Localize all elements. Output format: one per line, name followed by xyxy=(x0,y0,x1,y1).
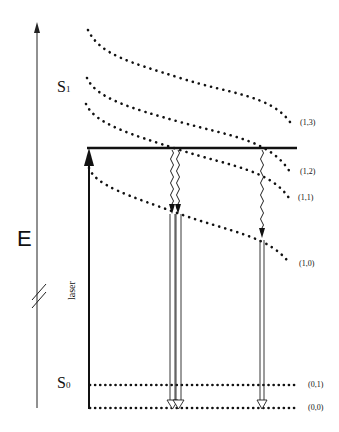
ground-levels xyxy=(90,385,298,408)
level-curve-1-2 xyxy=(87,78,290,172)
relaxation-arrows xyxy=(171,150,264,234)
level-label-1-0: (1,0) xyxy=(299,259,314,268)
relaxation-arrowheads xyxy=(169,204,265,238)
energy-axis-label: E xyxy=(17,226,32,252)
level-label-1-1: (1,1) xyxy=(298,193,313,202)
laser-arrow xyxy=(84,148,94,409)
level-curve-1-3 xyxy=(88,30,290,122)
state-label-s0: S0 xyxy=(57,374,70,392)
energy-axis xyxy=(34,22,40,408)
emission-arrows xyxy=(167,214,267,409)
level-label-0-0: (0,0) xyxy=(308,403,323,412)
level-curve-1-1 xyxy=(86,104,289,198)
laser-label: laser xyxy=(66,281,77,300)
level-label-1-2: (1,2) xyxy=(300,167,315,176)
axis-break-marker xyxy=(32,284,46,308)
level-label-1-3: (1,3) xyxy=(300,118,315,127)
level-label-0-1: (0,1) xyxy=(308,380,323,389)
state-label-s1: S1 xyxy=(57,78,70,96)
energy-diagram xyxy=(0,0,339,432)
